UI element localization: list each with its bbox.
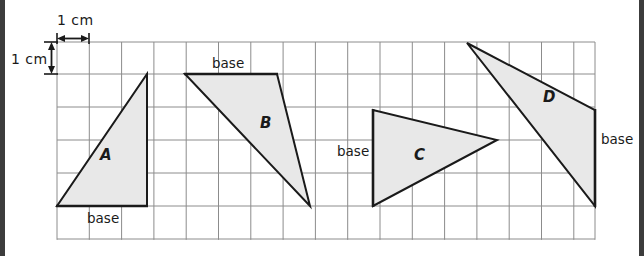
shape-label-d: D: [543, 90, 555, 105]
base-label-triangle-b: base: [212, 57, 244, 71]
shape-label-a: A: [100, 148, 112, 163]
triangle-c: [373, 110, 497, 206]
scale-label-vertical: 1 cm: [11, 52, 48, 66]
shape-label-b: B: [260, 116, 271, 131]
triangle-d: [467, 43, 595, 206]
base-label-triangle-d: base: [601, 133, 633, 147]
base-label-triangle-a: base: [87, 212, 119, 226]
scale-label-horizontal: 1 cm: [57, 13, 94, 27]
base-label-triangle-c: base: [337, 145, 369, 159]
worksheet-figure-page: 1 cm 1 cm base base base base A B C D: [0, 0, 644, 256]
shape-label-c: C: [414, 148, 425, 163]
